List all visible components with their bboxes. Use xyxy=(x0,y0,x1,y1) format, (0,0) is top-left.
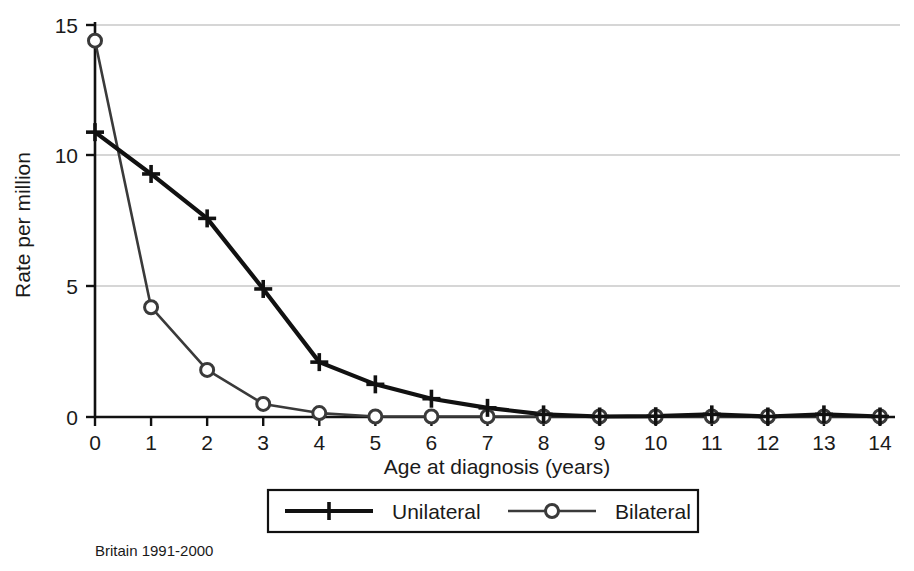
x-tick-label-11: 11 xyxy=(701,431,723,454)
x-tick-label-14: 14 xyxy=(868,431,892,454)
x-tick-label-13: 13 xyxy=(812,431,835,454)
chart-figure: 15 10 5 0 Rate per million 0123456789101… xyxy=(0,0,914,571)
x-tick-label-3: 3 xyxy=(257,431,269,454)
data-point-bilateral xyxy=(425,410,438,423)
x-axis-title: Age at diagnosis (years) xyxy=(384,455,610,478)
data-point-bilateral xyxy=(369,410,382,423)
y-tick-label-10: 10 xyxy=(55,144,78,167)
x-tick-label-7: 7 xyxy=(482,431,494,454)
x-tick-label-2: 2 xyxy=(201,431,213,454)
legend-label-bilateral: Bilateral xyxy=(615,500,691,523)
y-tick-label-0: 0 xyxy=(66,406,78,429)
data-point-bilateral xyxy=(257,397,270,410)
chart-legend: Unilateral Bilateral xyxy=(268,490,698,532)
x-tick-label-9: 9 xyxy=(594,431,606,454)
source-caption: Britain 1991-2000 xyxy=(95,542,213,559)
x-tick-label-6: 6 xyxy=(426,431,438,454)
data-point-bilateral xyxy=(145,301,158,314)
x-tick-label-0: 0 xyxy=(89,431,101,454)
legend-label-unilateral: Unilateral xyxy=(392,500,481,523)
y-axis-title: Rate per million xyxy=(11,152,34,298)
y-tick-label-15: 15 xyxy=(55,14,78,37)
data-point-bilateral xyxy=(89,34,102,47)
circle-marker-icon xyxy=(546,505,559,518)
x-tick-label-1: 1 xyxy=(145,431,157,454)
x-tick-label-10: 10 xyxy=(644,431,667,454)
x-tick-label-12: 12 xyxy=(756,431,779,454)
x-tick-label-8: 8 xyxy=(538,431,550,454)
x-axis-tick-labels: 01234567891011121314 xyxy=(89,431,892,454)
x-tick-label-5: 5 xyxy=(370,431,382,454)
line-chart: 15 10 5 0 Rate per million 0123456789101… xyxy=(0,0,914,571)
data-point-bilateral xyxy=(201,363,214,376)
x-tick-label-4: 4 xyxy=(313,431,325,454)
y-tick-label-5: 5 xyxy=(66,275,78,298)
data-point-bilateral xyxy=(313,407,326,420)
